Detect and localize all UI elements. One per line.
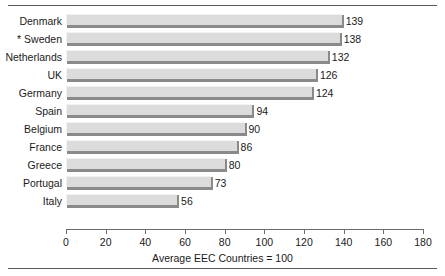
bar: [66, 68, 316, 79]
bar: [66, 32, 340, 43]
x-axis-tick-label: 180: [414, 236, 432, 248]
category-label: UK: [0, 69, 62, 81]
x-axis-tick: [106, 229, 107, 234]
plot-area: Denmark139* Sweden138Netherlands132UK126…: [0, 0, 445, 276]
x-axis-tick-label: 100: [256, 236, 274, 248]
x-axis-tick-label: 140: [335, 236, 353, 248]
category-label: Denmark: [0, 15, 62, 27]
bar-value-label: 90: [249, 123, 261, 135]
bar-value-label: 138: [344, 33, 362, 45]
bar: [66, 50, 328, 61]
category-label: France: [0, 141, 62, 153]
bar-row: Greece80: [0, 156, 445, 174]
bar-value-label: 94: [256, 105, 268, 117]
x-axis-tick: [145, 229, 146, 234]
bar-value-label: 86: [241, 141, 253, 153]
bar-row: Germany124: [0, 84, 445, 102]
bar-row: Portugal73: [0, 174, 445, 192]
x-axis-caption: Average EEC Countries = 100: [0, 252, 445, 264]
x-axis-line: [66, 229, 423, 230]
x-axis-tick: [66, 229, 67, 234]
bar: [66, 122, 245, 133]
bar: [66, 158, 225, 169]
x-axis-tick-label: 120: [295, 236, 313, 248]
x-axis-tick: [344, 229, 345, 234]
x-axis-tick: [264, 229, 265, 234]
bar-row: Spain94: [0, 102, 445, 120]
x-axis-tick-label: 40: [139, 236, 151, 248]
x-axis-tick: [185, 229, 186, 234]
x-axis-tick-label: 60: [179, 236, 191, 248]
bar-row: Italy56: [0, 192, 445, 210]
x-axis-tick: [423, 229, 424, 234]
x-axis-tick-label: 80: [219, 236, 231, 248]
category-label: Belgium: [0, 123, 62, 135]
category-label: Italy: [0, 195, 62, 207]
category-label: Greece: [0, 159, 62, 171]
x-axis-tick: [225, 229, 226, 234]
bar-row: UK126: [0, 66, 445, 84]
bar-value-label: 124: [316, 87, 334, 99]
bar-row: * Sweden138: [0, 30, 445, 48]
bar: [66, 14, 342, 25]
chart-figure: Denmark139* Sweden138Netherlands132UK126…: [0, 0, 445, 276]
bar: [66, 104, 252, 115]
bar-value-label: 132: [332, 51, 350, 63]
bar-value-label: 126: [320, 69, 338, 81]
category-label: * Sweden: [0, 33, 62, 45]
bar-value-label: 73: [215, 177, 227, 189]
category-label: Portugal: [0, 177, 62, 189]
x-axis-tick-label: 20: [100, 236, 112, 248]
bar: [66, 140, 237, 151]
x-axis-tick: [383, 229, 384, 234]
bar-row: France86: [0, 138, 445, 156]
x-axis-tick-label: 160: [375, 236, 393, 248]
bar: [66, 176, 211, 187]
category-label: Spain: [0, 105, 62, 117]
bar-row: Netherlands132: [0, 48, 445, 66]
category-label: Germany: [0, 87, 62, 99]
x-axis-tick-label: 0: [63, 236, 69, 248]
bar-value-label: 139: [346, 15, 364, 27]
bar: [66, 86, 312, 97]
x-axis-tick: [304, 229, 305, 234]
bar-row: Belgium90: [0, 120, 445, 138]
bar: [66, 194, 177, 205]
category-label: Netherlands: [0, 51, 62, 63]
bar-value-label: 80: [229, 159, 241, 171]
bar-row: Denmark139: [0, 12, 445, 30]
bar-value-label: 56: [181, 195, 193, 207]
